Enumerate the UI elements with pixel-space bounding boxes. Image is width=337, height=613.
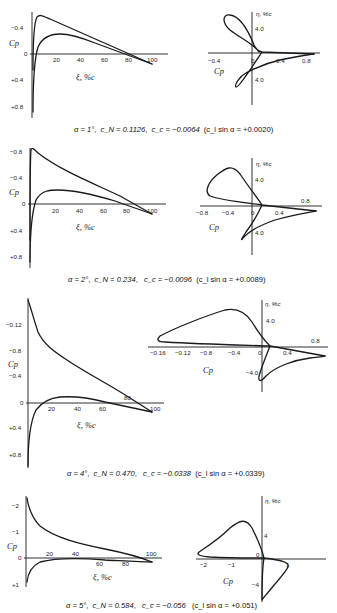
eta-axis-label: η, %c: [256, 160, 272, 167]
ytick: 0: [20, 399, 24, 406]
ytick: −0.8: [9, 347, 22, 354]
xtick: 0: [256, 551, 260, 558]
xtick: 0: [258, 349, 262, 356]
x-axis-label: ξ, %c: [76, 72, 95, 82]
panel-2: −0.8 −0.4 0 +0.4 +0.8 Cp 20 40 60 80 100…: [9, 148, 322, 284]
xtick: −0.12: [175, 349, 191, 356]
ytick: −0.4: [10, 174, 23, 181]
ytick: −0.4: [11, 24, 24, 31]
ytick: 4: [264, 532, 268, 539]
xtick: 20: [48, 405, 55, 412]
panel-4: −2 −1 0 +1 Cp 20 40 60 80 100 ξ, %c η, %…: [7, 496, 326, 610]
xtick: 80: [123, 207, 130, 214]
xtick: 0.8: [302, 57, 311, 64]
eta-axis-label: η, %c: [256, 10, 272, 17]
y-axis-label: Cp: [8, 359, 18, 369]
upper-loop-curve: [198, 521, 264, 558]
ytick: 4.0: [255, 176, 264, 183]
xtick: 0.4: [275, 209, 284, 216]
xtick: 0: [251, 209, 255, 216]
xtick: 20: [53, 56, 60, 63]
ytick: −4: [252, 581, 260, 588]
ytick: −0.8: [10, 148, 23, 155]
xtick: 20: [52, 207, 59, 214]
x-axis-label: ξ, %c: [93, 572, 112, 582]
ytick: +1: [12, 581, 20, 588]
xtick: 0.8: [311, 337, 320, 344]
xtick: 20: [46, 550, 53, 557]
xtick: 60: [96, 560, 103, 567]
panel-3-loop-plot: η, %c 4.0 −4.0 −0.16 −0.12 −0.8 −0.4 0 0…: [148, 300, 328, 392]
ytick: 4.0: [255, 229, 264, 236]
cp-axis-label: Cp: [203, 365, 213, 375]
ytick: −0.4: [9, 372, 22, 379]
figure-canvas: −0.4 0 +0.4 +0.8 Cp 20 40 60 80 100 ξ, %…: [0, 0, 337, 613]
panel-4-cp-plot: −2 −1 0 +1 Cp 20 40 60 80 100 ξ, %c: [7, 496, 162, 588]
x-axis-label: ξ, %c: [76, 222, 95, 232]
panel-1-cp-plot: −0.4 0 +0.4 +0.8 Cp 20 40 60 80 100 ξ, %…: [9, 12, 168, 118]
panel-4-loop-plot: η, %c 4 −4 −2 −1 0 1 Cp: [196, 496, 326, 602]
xtick: −0.4: [228, 349, 241, 356]
xtick: −0.8: [200, 349, 213, 356]
ytick: +0.4: [9, 424, 22, 431]
ytick: 4.0: [255, 76, 264, 83]
ytick: 0: [24, 50, 28, 57]
panel-2-cp-plot: −0.8 −0.4 0 +0.4 +0.8 Cp 20 40 60 80 100…: [9, 148, 166, 268]
ytick: 4.0: [255, 25, 264, 32]
xtick: 0.8: [301, 197, 310, 204]
panel-2-caption: α = 2°, c_N = 0.234, c_c = −0.0096 (c_l …: [68, 275, 266, 284]
ytick: 0: [22, 200, 26, 207]
panel-3: −0.12 −0.8 −0.4 0 +0.4 +0.8 Cp 20 40 60 …: [6, 298, 328, 478]
xtick: 100: [150, 405, 161, 412]
xtick: 60: [100, 207, 107, 214]
lower-loop-curve: [259, 346, 325, 381]
panel-4-caption: α = 5°, c_N = 0.584, c_c = −0.056 (c_l s…: [66, 601, 258, 610]
x-axis-label: ξ, %c: [77, 420, 96, 430]
ytick: 0: [18, 554, 22, 561]
ytick: −0.12: [6, 321, 22, 328]
ytick: +0.8: [11, 103, 24, 110]
panel-2-loop-plot: η, %c 4.0 4.0 −0.8 −0.4 0 0.4 0.8 Cp: [196, 158, 322, 255]
xtick: −0.8: [196, 209, 209, 216]
upper-loop-curve: [224, 15, 314, 54]
y-axis-label: Cp: [9, 187, 19, 197]
xtick: 40: [76, 207, 83, 214]
y-axis-label: Cp: [7, 541, 17, 551]
cp-axis-label: Cp: [223, 576, 233, 586]
ytick: −4.0: [246, 369, 259, 376]
eta-axis-label: η, %c: [265, 300, 281, 307]
xtick: −1: [228, 561, 236, 568]
xtick: 100: [146, 550, 157, 557]
lower-surface-curve: [27, 559, 152, 582]
eta-axis-label: η, %c: [265, 497, 281, 504]
xtick: −0.4: [222, 209, 235, 216]
ytick: +0.4: [11, 76, 24, 83]
ytick: −1: [12, 528, 20, 535]
upper-surface-curve: [33, 16, 152, 70]
xtick: −2: [200, 561, 208, 568]
cp-axis-label: Cp: [214, 66, 224, 76]
xtick: 60: [101, 56, 108, 63]
ytick: +0.8: [9, 451, 22, 458]
ytick: 4.0: [266, 317, 275, 324]
upper-surface-curve: [28, 300, 152, 412]
xtick: 40: [77, 56, 84, 63]
panel-1-caption: α = 1°, c_N = 0.1126, c_c = −0.0064 (c_l…: [74, 125, 274, 134]
xtick: 40: [72, 550, 79, 557]
panel-3-caption: α = 4°, c_N = 0.470, c_c = −0.0338 (c_l …: [67, 469, 265, 478]
ytick: +0.4: [10, 227, 23, 234]
xtick: 40: [74, 405, 81, 412]
y-axis-label: Cp: [9, 38, 19, 48]
lower-loop-curve: [262, 558, 288, 600]
panel-1-loop-plot: η, %c 4.0 4.0 −0.4 0 0.4 0.8 Cp: [208, 10, 320, 105]
xtick: 60: [99, 405, 106, 412]
xtick: −0.4: [208, 57, 221, 64]
panel-3-cp-plot: −0.12 −0.8 −0.4 0 +0.4 +0.8 Cp 20 40 60 …: [6, 298, 164, 468]
cp-axis-label: Cp: [209, 222, 219, 232]
ytick: +0.8: [10, 253, 23, 260]
lower-surface-curve: [28, 397, 152, 466]
ytick: −2: [12, 502, 20, 509]
xtick: −0.16: [150, 349, 166, 356]
panel-1: −0.4 0 +0.4 +0.8 Cp 20 40 60 80 100 ξ, %…: [9, 10, 320, 134]
